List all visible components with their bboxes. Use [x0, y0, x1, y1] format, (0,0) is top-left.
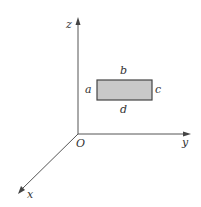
z-axis-arrowhead [76, 17, 81, 25]
edge-label-bottom: d [120, 103, 127, 116]
x-axis-label: x [27, 188, 34, 201]
edge-label-left: a [85, 83, 92, 96]
edge-label-right: c [155, 83, 161, 96]
edge-label-top: b [120, 64, 127, 77]
origin-label: O [76, 137, 85, 150]
coordinate-diagram: z y x O b a c d [0, 0, 201, 207]
shaded-rectangle [97, 80, 152, 100]
y-axis-label: y [181, 136, 189, 149]
x-axis [22, 134, 78, 189]
z-axis-label: z [65, 18, 72, 31]
